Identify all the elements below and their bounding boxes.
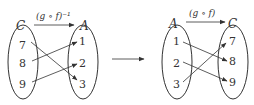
- element-3: 3: [79, 78, 86, 91]
- element-9-right: 9: [229, 76, 236, 89]
- set-c-label-right: C: [228, 17, 237, 31]
- element-1: 1: [79, 35, 86, 48]
- right-diagram: A C (g ∘ f) 1 2 3 7 8 9: [162, 8, 248, 99]
- set-a-label-right: A: [168, 17, 178, 31]
- element-8-right: 8: [229, 55, 236, 68]
- element-7: 7: [19, 39, 26, 52]
- element-9: 9: [19, 78, 26, 91]
- mapping-diagrams: C A (g ∘ f)⁻¹ 7 8 9 1 2 3 A C (g ∘ f) 1 …: [0, 0, 254, 105]
- element-1-right: 1: [173, 35, 180, 48]
- map-1-to-8: [183, 42, 227, 61]
- function-label: (g ∘ f)⁻¹: [36, 11, 71, 21]
- element-7-right: 7: [229, 35, 236, 48]
- map-8-to-1: [32, 42, 77, 61]
- element-3-right: 3: [173, 78, 180, 91]
- set-a-label: A: [79, 19, 89, 33]
- function-label-right: (g ∘ f): [189, 8, 216, 18]
- element-2-right: 2: [173, 57, 180, 70]
- set-c-label: C: [16, 19, 25, 33]
- element-2: 2: [79, 57, 86, 70]
- map-9-to-2: [32, 64, 77, 82]
- left-diagram: C A (g ∘ f)⁻¹ 7 8 9 1 2 3: [8, 11, 98, 99]
- element-8: 8: [19, 57, 26, 70]
- map-2-to-9: [183, 62, 227, 81]
